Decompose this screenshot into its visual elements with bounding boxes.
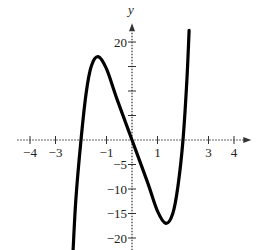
y-tick-label: −20 bbox=[107, 231, 127, 246]
y-tick-label: −10 bbox=[107, 182, 127, 197]
y-tick-label: 20 bbox=[114, 35, 127, 50]
x-tick-label: −1 bbox=[100, 145, 114, 160]
x-tick-label: 1 bbox=[154, 145, 161, 160]
x-tick-label: −3 bbox=[49, 145, 63, 160]
x-axis-arrow bbox=[243, 137, 251, 143]
axes bbox=[17, 23, 251, 250]
y-axis-label: y bbox=[126, 2, 134, 17]
y-tick-label: −5 bbox=[113, 157, 127, 172]
x-tick-label: −4 bbox=[23, 145, 37, 160]
x-tick-label: 3 bbox=[205, 145, 212, 160]
x-tick-label: 4 bbox=[231, 145, 238, 160]
function-graph: −4−3−113420−5−10−15−20 y bbox=[0, 0, 266, 250]
y-axis-arrow bbox=[129, 23, 135, 31]
y-tick-label: −15 bbox=[107, 206, 127, 221]
